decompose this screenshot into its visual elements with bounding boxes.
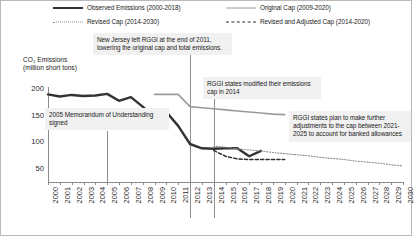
legend-swatch-dashed-dark-icon: [226, 18, 256, 25]
legend-swatch-solid-gray-icon: [226, 4, 256, 11]
legend-item-observed-emissions: Observed Emissions (2000-2018): [53, 4, 181, 11]
legend-label-observed-emissions: Observed Emissions (2000-2018): [87, 4, 181, 11]
legend-label-revised-adjusted-cap: Revised and Adjusted Cap (2014-2020): [260, 18, 370, 25]
annotation-nj-exit: New Jersey left RGGI at the end of 2011,…: [93, 33, 232, 55]
legend-item-revised-adjusted-cap: Revised and Adjusted Cap (2014-2020): [226, 18, 370, 25]
annotation-cap-modified: RGGI states modified their emissions cap…: [203, 77, 321, 99]
chart-legend: Observed Emissions (2000-2018) Original …: [1, 3, 413, 35]
legend-label-original-cap: Original Cap (2009-2020): [260, 4, 331, 11]
series-line-dotted-gray: [214, 146, 403, 166]
annotation-memorandum: 2005 Memorandum of Understanding signed: [45, 108, 169, 130]
annotation-future-adjustments: RGGI states plan to make further adjustm…: [289, 111, 411, 142]
legend-item-original-cap: Original Cap (2009-2020): [226, 4, 331, 11]
legend-swatch-solid-dark-icon: [53, 4, 83, 11]
legend-label-revised-cap: Revised Cap (2014-2030): [87, 18, 159, 25]
legend-swatch-dotted-gray-icon: [53, 18, 83, 25]
chart-plot-area: CO₂ Emissions (million short tons) 50100…: [1, 35, 413, 237]
legend-item-revised-cap: Revised Cap (2014-2030): [53, 18, 159, 25]
